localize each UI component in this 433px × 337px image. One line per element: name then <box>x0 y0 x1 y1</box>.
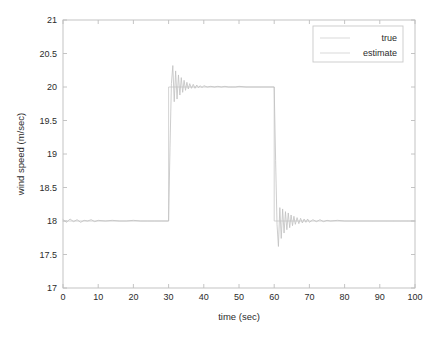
x-axis-title: time (sec) <box>218 311 260 322</box>
legend[interactable]: true estimate <box>313 26 403 62</box>
y-tick-label: 20 <box>47 82 57 92</box>
x-tick-label: 20 <box>128 292 138 302</box>
y-tick-label: 20.5 <box>39 49 57 59</box>
series-line-true <box>63 87 415 221</box>
x-tick-label: 80 <box>340 292 350 302</box>
y-axis-title: wind speed (m/sec) <box>15 113 26 196</box>
data-series-group <box>63 66 415 247</box>
x-tick-label: 10 <box>93 292 103 302</box>
x-tick-label: 30 <box>164 292 174 302</box>
legend-label-estimate: estimate <box>363 48 397 58</box>
y-tick-label: 18.5 <box>39 183 57 193</box>
y-tick-label: 19 <box>47 149 57 159</box>
y-tick-label: 17 <box>47 283 57 293</box>
x-tick-label: 100 <box>407 292 422 302</box>
x-axis-tick-labels: 0102030405060708090100 <box>60 292 422 302</box>
y-tick-label: 17.5 <box>39 250 57 260</box>
x-tick-label: 0 <box>60 292 65 302</box>
y-tick-label: 19.5 <box>39 116 57 126</box>
figure-canvas: 0102030405060708090100 1717.51818.51919.… <box>0 0 433 337</box>
x-tick-label: 50 <box>234 292 244 302</box>
plot-svg: 0102030405060708090100 1717.51818.51919.… <box>0 0 433 337</box>
series-line-estimate <box>63 66 415 247</box>
x-tick-label: 90 <box>375 292 385 302</box>
y-axis-tick-labels: 1717.51818.51919.52020.521 <box>39 15 57 293</box>
legend-label-true: true <box>381 33 397 43</box>
x-tick-label: 60 <box>269 292 279 302</box>
y-tick-label: 18 <box>47 216 57 226</box>
x-tick-label: 40 <box>199 292 209 302</box>
x-tick-label: 70 <box>304 292 314 302</box>
y-tick-label: 21 <box>47 15 57 25</box>
